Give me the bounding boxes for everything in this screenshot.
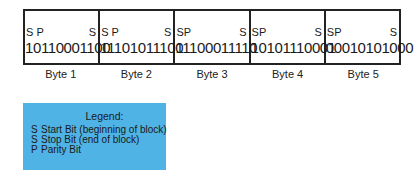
legend-title: Legend:: [43, 110, 166, 122]
legend-item-parity-bit: PParity Bit: [23, 145, 166, 155]
byte-cell-4: SPS 10101110001: [251, 11, 326, 63]
bit-string: 11101011100: [100, 40, 173, 55]
byte-labels: Byte 1 Byte 2 Byte 3 Byte 4 Byte 5: [23, 68, 401, 80]
stop-mark: S: [164, 27, 171, 38]
bit-string: 10110001100: [25, 40, 98, 55]
start-parity-marks: SP: [176, 27, 191, 38]
start-parity-marks: S P: [26, 27, 44, 38]
byte-label-2: Byte 2: [99, 68, 175, 80]
start-parity-marks: SP: [327, 27, 342, 38]
stop-mark: S: [89, 27, 96, 38]
byte-cell-3: SPS 11100011110: [175, 11, 250, 63]
stop-mark: S: [314, 27, 321, 38]
legend-box: Legend: SStart Bit (beginning of block) …: [23, 103, 166, 170]
byte-cell-5: SPS 00010101000: [326, 11, 399, 63]
byte-frame: S PS 10110001100 S PS 11101011100 SPS 11…: [23, 9, 401, 65]
byte-label-1: Byte 1: [23, 68, 99, 80]
byte-cell-1: S PS 10110001100: [25, 11, 100, 63]
bit-string: 11100011110: [175, 40, 248, 55]
bit-string: 10101110001: [251, 40, 324, 55]
start-parity-marks: SP: [252, 27, 267, 38]
legend-symbol: P: [31, 145, 41, 155]
legend-text: Parity Bit: [41, 144, 81, 155]
byte-label-4: Byte 4: [250, 68, 326, 80]
start-parity-marks: S P: [101, 27, 119, 38]
bit-string: 00010101000: [326, 40, 399, 55]
stop-mark: S: [390, 27, 397, 38]
stop-mark: S: [239, 27, 246, 38]
byte-label-3: Byte 3: [174, 68, 250, 80]
byte-cell-2: S PS 11101011100: [100, 11, 175, 63]
byte-label-5: Byte 5: [325, 68, 401, 80]
